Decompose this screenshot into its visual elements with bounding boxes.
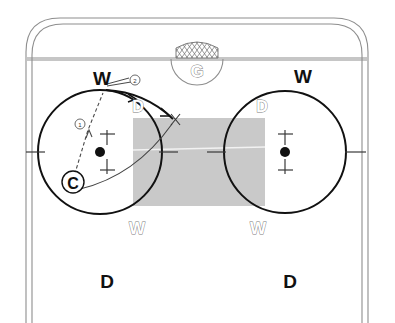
goal-net [159,32,235,60]
wing-right-top-label: W [294,66,312,87]
defense-right-circle-label: D [256,98,268,115]
right-faceoff-dot [280,147,290,157]
goalie-label: G [190,62,203,81]
wing-left-bottom-label: W [129,219,146,238]
wing-right-bottom-label: W [250,219,267,238]
path-1-center-to-wing [73,93,103,180]
defense-left-circle-label: D [132,98,144,115]
rink-svg: G 1 2 [0,0,395,323]
hockey-zone-diagram: G 1 2 [0,0,395,323]
wing-left-top-label: W [93,68,111,89]
defense-right-bottom-label: D [283,271,297,292]
left-faceoff-dot [95,147,105,157]
defense-left-bottom-label: D [100,271,114,292]
center-label: C [67,175,79,192]
path-2-arrowhead-end [160,108,170,116]
slot-shade-rect [133,118,265,206]
